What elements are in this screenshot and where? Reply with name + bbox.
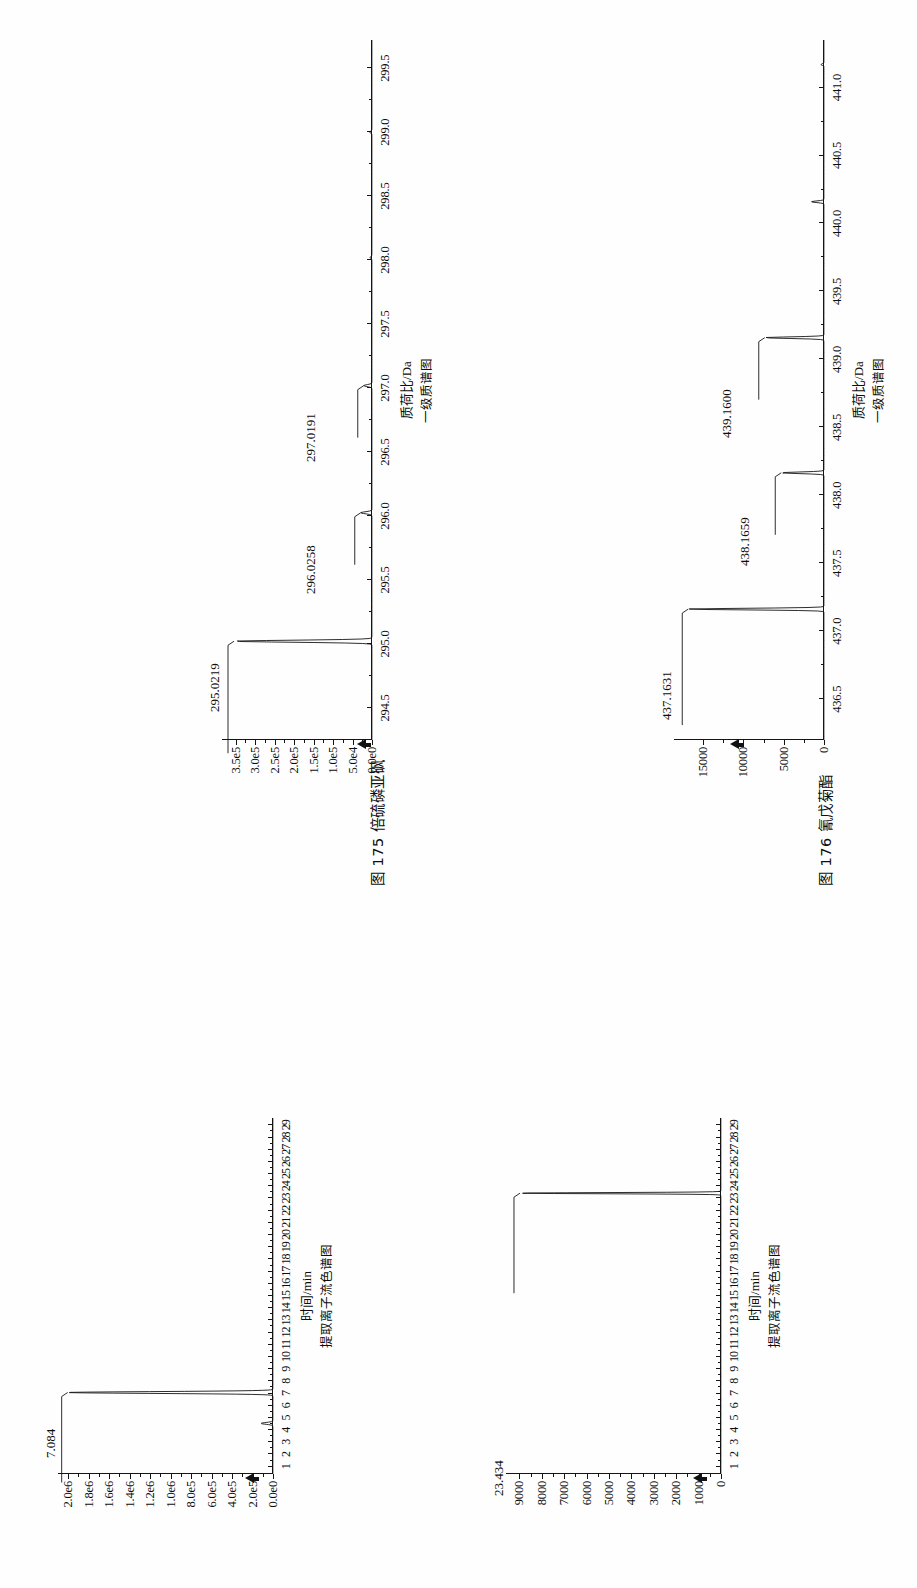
y-axis-minor-tick bbox=[119, 1474, 120, 1477]
y-axis-tick-label: 2000 bbox=[670, 1474, 683, 1505]
x-axis-tick bbox=[268, 1258, 273, 1259]
x-axis-line bbox=[823, 40, 824, 740]
x-axis-minor-tick bbox=[821, 189, 824, 190]
x-axis-tick-label: 296.5 bbox=[379, 439, 392, 466]
x-axis-minor-tick bbox=[821, 256, 824, 257]
x-axis-tick bbox=[716, 1380, 721, 1381]
y-axis-minor-tick bbox=[181, 1474, 182, 1477]
x-axis-minor-tick bbox=[270, 1301, 273, 1302]
x-axis-tick-label: 8 bbox=[728, 1379, 740, 1384]
y-axis-minor-tick bbox=[620, 1474, 621, 1477]
x-axis-tick-label: 295.0 bbox=[379, 630, 392, 657]
x-axis-minor-tick bbox=[270, 1435, 273, 1436]
x-axis-tick bbox=[819, 223, 824, 224]
x-axis-tick-label: 27 bbox=[728, 1145, 740, 1155]
x-axis-tick bbox=[716, 1307, 721, 1308]
x-axis-minor-tick bbox=[718, 1191, 721, 1192]
x-axis-minor-tick bbox=[718, 1252, 721, 1253]
x-axis-tick-label: 28 bbox=[728, 1133, 740, 1143]
x-axis-tick bbox=[716, 1332, 721, 1333]
x-axis-minor-tick bbox=[369, 227, 372, 228]
x-axis-tick bbox=[268, 1380, 273, 1381]
peak-label-2960258: 296.0258 bbox=[304, 545, 317, 594]
x-axis-minor-tick bbox=[369, 163, 372, 164]
x-axis-minor-tick bbox=[718, 1350, 721, 1351]
x-axis-minor-tick bbox=[718, 1228, 721, 1229]
axis-origin-arrow-stem bbox=[253, 1477, 259, 1481]
x-axis-tick-label: 297.0 bbox=[379, 375, 392, 402]
x-axis-minor-tick bbox=[270, 1167, 273, 1168]
x-axis-tick-label: 15 bbox=[728, 1291, 740, 1301]
x-axis-tick-label: 1 bbox=[280, 1464, 292, 1469]
x-axis-tick-label: 14 bbox=[728, 1303, 740, 1313]
y-axis-tick-label: 2.5e5 bbox=[268, 740, 281, 773]
x-axis-tick bbox=[367, 195, 372, 196]
x-axis-tick-label: 1 bbox=[728, 1464, 740, 1469]
x-axis-tick bbox=[367, 451, 372, 452]
y-axis-minor-tick bbox=[598, 1474, 599, 1477]
x-axis-minor-tick bbox=[270, 1216, 273, 1217]
x-axis-tick bbox=[716, 1368, 721, 1369]
y-axis-minor-tick bbox=[201, 1474, 202, 1477]
chart-chromatogram-fenvalerate: 1234567891011121314151617181920212223242… bbox=[492, 1100, 792, 1570]
x-axis-tick bbox=[268, 1417, 273, 1418]
x-axis-minor-tick bbox=[270, 1374, 273, 1375]
x-axis-tick-label: 4 bbox=[280, 1428, 292, 1433]
x-axis-tick bbox=[367, 515, 372, 516]
y-axis-tick-label: 2.0e5 bbox=[288, 740, 301, 773]
x-axis-title: 质荷比/Da bbox=[848, 361, 867, 419]
peak-label-23434: 23.434 bbox=[492, 1460, 505, 1496]
x-axis-line bbox=[720, 1118, 721, 1474]
x-axis-tick bbox=[367, 579, 372, 580]
x-axis-tick bbox=[268, 1222, 273, 1223]
x-axis-minor-tick bbox=[270, 1399, 273, 1400]
x-axis-tick-label: 20 bbox=[280, 1230, 292, 1240]
x-axis-minor-tick bbox=[270, 1143, 273, 1144]
y-axis-minor-tick bbox=[804, 740, 805, 743]
x-axis-tick-label: 440.0 bbox=[831, 210, 844, 237]
y-axis-tick-label: 0.0e0 bbox=[267, 1474, 280, 1507]
y-axis-tick-label: 0 bbox=[818, 740, 831, 753]
x-axis-tick-label: 25 bbox=[280, 1169, 292, 1179]
y-axis-tick-label: 1.5e5 bbox=[307, 740, 320, 773]
peak-label-2970191: 297.0191 bbox=[304, 413, 317, 462]
x-axis-minor-tick bbox=[718, 1167, 721, 1168]
x-axis-title: 时间/min bbox=[296, 1271, 315, 1321]
chart-subtitle: 提取离子流色谱图 bbox=[316, 1244, 335, 1348]
x-axis-tick bbox=[819, 630, 824, 631]
x-axis-tick bbox=[367, 387, 372, 388]
x-axis-minor-tick bbox=[718, 1313, 721, 1314]
x-axis-minor-tick bbox=[718, 1447, 721, 1448]
x-axis-tick-label: 12 bbox=[280, 1328, 292, 1338]
x-axis-tick-label: 298.0 bbox=[379, 247, 392, 274]
x-axis-tick-label: 28 bbox=[280, 1133, 292, 1143]
x-axis-tick bbox=[268, 1283, 273, 1284]
x-axis-tick bbox=[268, 1307, 273, 1308]
axis-origin-arrow-stem bbox=[365, 743, 371, 747]
x-axis-tick-label: 3 bbox=[280, 1440, 292, 1445]
x-axis-tick-label: 7 bbox=[280, 1391, 292, 1396]
x-axis-tick bbox=[716, 1149, 721, 1150]
x-axis-minor-tick bbox=[821, 528, 824, 529]
x-axis-tick bbox=[268, 1295, 273, 1296]
x-axis-minor-tick bbox=[821, 121, 824, 122]
y-axis-minor-tick bbox=[222, 1474, 223, 1477]
figure-caption-176: 图 176 氰戊菊酯 bbox=[814, 774, 835, 886]
y-axis-tick-label: 3.0e5 bbox=[249, 740, 262, 773]
x-axis-tick bbox=[716, 1234, 721, 1235]
y-axis-tick-label: 1.4e6 bbox=[123, 1474, 136, 1507]
y-axis-tick-label: 6000 bbox=[580, 1474, 593, 1505]
y-axis-tick-label: 1.0e5 bbox=[327, 740, 340, 773]
x-axis-tick bbox=[367, 707, 372, 708]
x-axis-tick-label: 438.0 bbox=[831, 482, 844, 509]
y-axis-tick-label: 8000 bbox=[536, 1474, 549, 1505]
x-axis-tick-label: 5 bbox=[728, 1415, 740, 1420]
x-axis-tick bbox=[716, 1344, 721, 1345]
x-axis-tick-label: 25 bbox=[728, 1169, 740, 1179]
x-axis-tick bbox=[268, 1356, 273, 1357]
x-axis-tick bbox=[268, 1393, 273, 1394]
book-page: 1234567891011121314151617181920212223242… bbox=[0, 0, 917, 1588]
chromatogram-trace bbox=[506, 1118, 721, 1474]
x-axis-tick-label: 8 bbox=[280, 1379, 292, 1384]
x-axis-tick bbox=[716, 1197, 721, 1198]
